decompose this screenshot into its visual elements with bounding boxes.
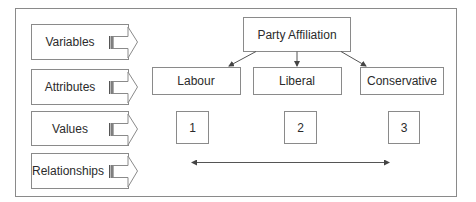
attribute-label: Liberal bbox=[279, 74, 315, 88]
attribute-node-labour: Labour bbox=[153, 68, 241, 95]
value-label: 1 bbox=[189, 121, 196, 135]
legend-label: Variables bbox=[45, 35, 94, 49]
legend-item-relationships: Relationships bbox=[32, 154, 138, 189]
diagram-canvas: Variables Attributes Values Relationship… bbox=[0, 0, 476, 202]
value-node-1: 1 bbox=[177, 112, 209, 144]
value-node-3: 3 bbox=[389, 112, 420, 144]
attribute-node-conservative: Conservative bbox=[361, 68, 444, 95]
legend-item-variables: Variables bbox=[32, 25, 138, 60]
arrow-to-labour bbox=[229, 52, 256, 67]
legend-label: Relationships bbox=[32, 164, 104, 178]
attribute-label: Labour bbox=[177, 74, 214, 88]
legend-item-values: Values bbox=[32, 112, 138, 146]
legend-label: Values bbox=[52, 122, 88, 136]
variable-label: Party Affiliation bbox=[257, 28, 336, 42]
legend-label: Attributes bbox=[45, 80, 96, 94]
attribute-node-liberal: Liberal bbox=[254, 68, 342, 95]
value-node-2: 2 bbox=[285, 112, 317, 144]
variable-node: Party Affiliation bbox=[244, 18, 351, 52]
arrow-to-conservative bbox=[341, 52, 366, 67]
attribute-label: Conservative bbox=[367, 74, 437, 88]
value-label: 3 bbox=[401, 121, 408, 135]
value-label: 2 bbox=[297, 121, 304, 135]
legend-item-attributes: Attributes bbox=[32, 70, 138, 105]
